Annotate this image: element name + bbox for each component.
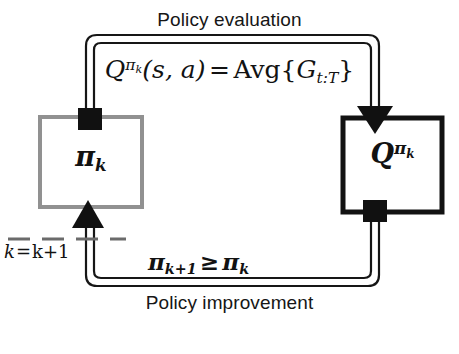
improvement-equation: πk+1≥πk [148, 250, 249, 273]
evaluation-equation: Qπk(s, a)=Avg{Gt:T} [0, 57, 459, 82]
policy-box-label: πk [38, 143, 144, 170]
improvement-source-square-marker [363, 200, 387, 222]
gpi-diagram: Policy evaluation Qπk(s, a)=Avg{Gt:T} πk… [0, 0, 459, 354]
policy-improvement-label: Policy improvement [0, 293, 459, 312]
evaluation-source-square-marker [78, 108, 102, 130]
qvalue-box-label: Qπk [341, 140, 444, 167]
evaluation-rhs: Avg{Gt:T} [233, 55, 354, 84]
policy-evaluation-label: Policy evaluation [0, 10, 459, 29]
evaluation-relation: = [205, 55, 233, 84]
evaluation-lhs: Qπk(s, a) [105, 55, 206, 84]
counter-update-label: k=k+1 [4, 243, 69, 261]
